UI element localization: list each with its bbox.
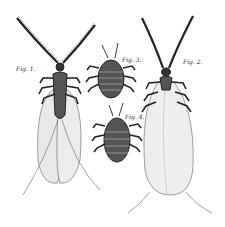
fig2-label: Fig. 2. — [183, 58, 202, 65]
fig1-label: Fig. 1. — [16, 65, 35, 72]
fig4-label: Fig. 4. — [125, 113, 144, 120]
illustration-plate: Fig. 1. Fig. 2. Fig. 3. Fig. 4. — [0, 0, 225, 227]
insect-fig1 — [17, 16, 100, 195]
insect-fig4 — [92, 103, 142, 162]
insect-drawings — [0, 0, 225, 227]
fig3-label: Fig. 3. — [122, 56, 141, 63]
insect-fig3 — [86, 43, 136, 98]
